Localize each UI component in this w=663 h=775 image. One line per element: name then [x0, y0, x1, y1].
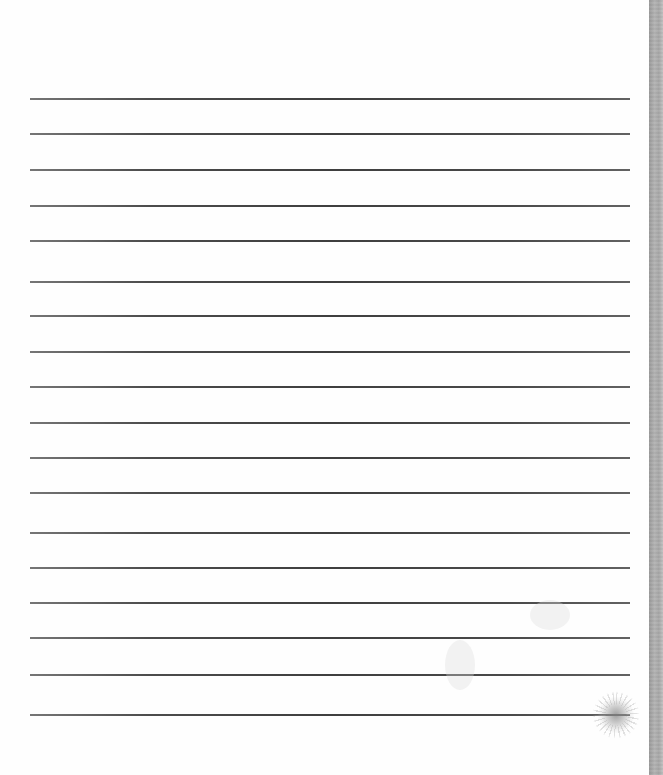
ruled-line	[30, 637, 630, 639]
ruled-line	[30, 422, 630, 424]
ruled-line	[30, 714, 630, 716]
ruled-line	[30, 240, 630, 242]
ruled-line	[30, 98, 630, 100]
ruled-line	[30, 169, 630, 171]
ruled-line	[30, 532, 630, 534]
notebook-page	[0, 0, 649, 775]
ruled-line	[30, 315, 630, 317]
ruled-line	[30, 457, 630, 459]
ruled-line	[30, 386, 630, 388]
faint-smudge	[445, 640, 475, 690]
ruled-line	[30, 567, 630, 569]
ruled-line	[30, 351, 630, 353]
ruled-line	[30, 492, 630, 494]
ruled-line	[30, 674, 630, 676]
page-binding-edge	[649, 0, 663, 775]
ruled-line	[30, 205, 630, 207]
faint-smudge	[530, 600, 570, 630]
ruled-line	[30, 133, 630, 135]
ink-spot-icon	[598, 697, 634, 733]
ruled-line	[30, 281, 630, 283]
